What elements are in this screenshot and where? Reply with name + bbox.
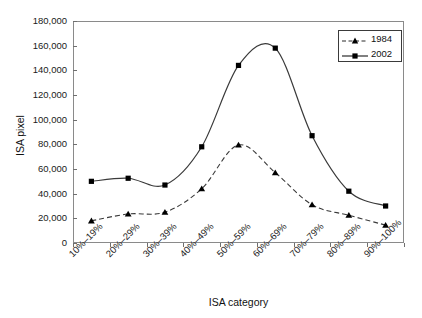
data-point-marker — [309, 202, 316, 208]
y-axis-title: ISA pixel — [14, 115, 26, 156]
data-point-marker — [236, 63, 241, 68]
data-point-marker — [346, 189, 351, 194]
series-line-1984 — [91, 145, 385, 225]
data-point-marker — [89, 179, 94, 184]
series-1984 — [88, 142, 389, 228]
legend-label-1984: 1984 — [371, 34, 392, 44]
data-point-marker — [126, 176, 131, 181]
legend-item-1984: 1984 — [339, 31, 401, 47]
data-point-marker — [162, 182, 167, 187]
chart-legend: 1984 2002 — [338, 30, 402, 62]
data-point-marker — [309, 133, 314, 138]
legend-swatch-dashed-triangle — [342, 33, 368, 45]
legend-label-2002: 2002 — [371, 49, 392, 59]
data-point-marker — [125, 211, 132, 217]
data-point-marker — [273, 46, 278, 51]
series-2002 — [89, 44, 388, 209]
legend-item-2002: 2002 — [339, 46, 401, 62]
data-point-marker — [383, 203, 388, 208]
x-axis-title: ISA category — [73, 296, 404, 308]
line-chart: 020,00040,00060,00080,000100,000120,0001… — [0, 0, 422, 318]
data-point-marker — [199, 144, 204, 149]
legend-swatch-solid-square — [342, 48, 368, 60]
